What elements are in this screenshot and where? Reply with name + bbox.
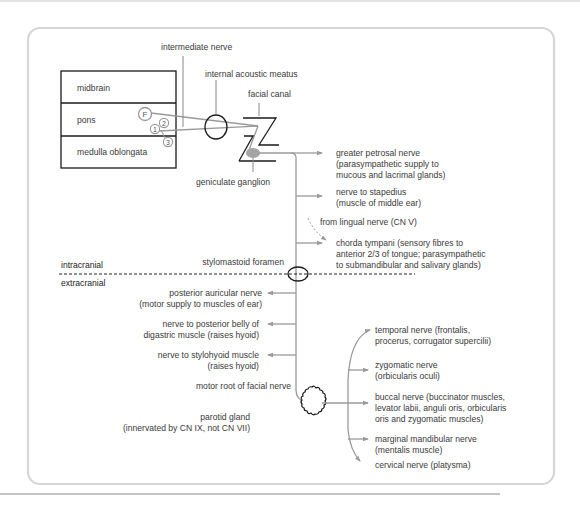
parotid-label: parotid gland: [200, 412, 250, 422]
facial-nerve-diagram: midbrain pons medulla oblongata F 1 2 3 …: [0, 0, 580, 513]
svg-text:posterior auricular nerve: posterior auricular nerve: [169, 288, 262, 298]
svg-text:F: F: [143, 110, 148, 119]
posterior-auricular-label: posterior auricular nerve (motor supply …: [139, 288, 262, 309]
greater-petrosal-label: greater petrosal nerve (parasympathetic …: [336, 148, 446, 180]
svg-text:nerve to stylohyoid muscle: nerve to stylohyoid muscle: [158, 350, 259, 360]
svg-text:greater petrosal nerve: greater petrosal nerve: [336, 148, 420, 158]
svg-text:1: 1: [153, 126, 157, 133]
brainstem-box: midbrain pons medulla oblongata: [61, 71, 176, 168]
from-lingual-label: from lingual nerve (CN V): [320, 217, 417, 227]
facial-nerve-trunk: [259, 153, 306, 402]
svg-text:(parasympathetic supply to: (parasympathetic supply to: [336, 159, 439, 169]
stylomastoid-foramen-label: stylomastoid foramen: [202, 257, 284, 267]
svg-text:digastric muscle (raises hyoid: digastric muscle (raises hyoid): [143, 330, 259, 340]
svg-text:(orbicularis oculi): (orbicularis oculi): [375, 371, 440, 381]
svg-text:zygomatic nerve: zygomatic nerve: [375, 360, 438, 370]
midbrain-label: midbrain: [77, 83, 110, 93]
buccal-nerve-label: buccal nerve (buccinator muscles, levato…: [375, 392, 506, 424]
svg-text:chorda tympani (sensory fibres: chorda tympani (sensory fibres to: [336, 238, 463, 248]
stapedius-label: nerve to stapedius (muscle of middle ear…: [336, 187, 421, 208]
svg-text:procerus, corrugator supercili: procerus, corrugator supercilii): [375, 336, 491, 346]
geniculate-ganglion-label: geniculate ganglion: [196, 177, 270, 187]
svg-text:buccal nerve (buccinator muscl: buccal nerve (buccinator muscles,: [375, 392, 505, 402]
svg-text:anterior 2/3 of tongue; parasy: anterior 2/3 of tongue; parasympathetic: [336, 249, 486, 259]
terminal-branch-trunk: [348, 331, 368, 461]
internal-acoustic-meatus-label: internal acoustic meatus: [205, 69, 298, 79]
svg-text:nerve to posterior belly of: nerve to posterior belly of: [163, 319, 260, 329]
svg-text:to submandibular and salivary: to submandibular and salivary glands): [336, 260, 481, 270]
svg-text:(mentalis muscle): (mentalis muscle): [375, 445, 442, 455]
intermediate-root-line: [159, 126, 258, 131]
svg-text:levator labii, anguli oris, or: levator labii, anguli oris, orbicularis: [375, 403, 506, 413]
svg-text:oris and zygomatic muscles): oris and zygomatic muscles): [375, 414, 484, 424]
digastric-label: nerve to posterior belly of digastric mu…: [143, 319, 259, 340]
zygomatic-nerve-label: zygomatic nerve (orbicularis oculi): [375, 360, 440, 381]
extracranial-label: extracranial: [61, 278, 106, 288]
svg-text:nerve to stapedius: nerve to stapedius: [336, 187, 406, 197]
cervical-nerve-label: cervical nerve (platysma): [375, 460, 471, 470]
parotid-gland-shape: [301, 386, 326, 415]
svg-text:(motor supply to muscles of ea: (motor supply to muscles of ear): [139, 299, 262, 309]
geniculate-ganglion-dot: [246, 148, 260, 158]
svg-text:temporal nerve (frontalis,: temporal nerve (frontalis,: [375, 325, 470, 335]
svg-text:(muscle of middle ear): (muscle of middle ear): [336, 198, 421, 208]
stylohyoid-label: nerve to stylohyoid muscle (raises hyoid…: [158, 350, 259, 371]
motor-root-label: motor root of facial nerve: [196, 381, 291, 391]
svg-text:marginal mandibular nerve: marginal mandibular nerve: [375, 434, 477, 444]
intermediate-nerve-label: intermediate nerve: [161, 42, 232, 52]
chorda-tympani-label: chorda tympani (sensory fibres to anteri…: [336, 238, 486, 270]
internal-acoustic-meatus-oval: [205, 115, 227, 139]
svg-text:2: 2: [162, 120, 166, 127]
facial-canal-label: facial canal: [248, 89, 291, 99]
svg-text:(raises hyoid): (raises hyoid): [207, 361, 259, 371]
svg-text:mucous and lacrimal glands): mucous and lacrimal glands): [336, 170, 446, 180]
intracranial-label: intracranial: [61, 260, 103, 270]
pons-label: pons: [77, 115, 96, 125]
parotid-innervation-note: (innervated by CN IX, not CN VII): [123, 423, 250, 433]
svg-text:3: 3: [166, 139, 170, 146]
marginal-mandibular-label: marginal mandibular nerve (mentalis musc…: [375, 434, 477, 455]
medulla-label: medulla oblongata: [77, 147, 147, 157]
temporal-nerve-label: temporal nerve (frontalis, procerus, cor…: [375, 325, 491, 346]
